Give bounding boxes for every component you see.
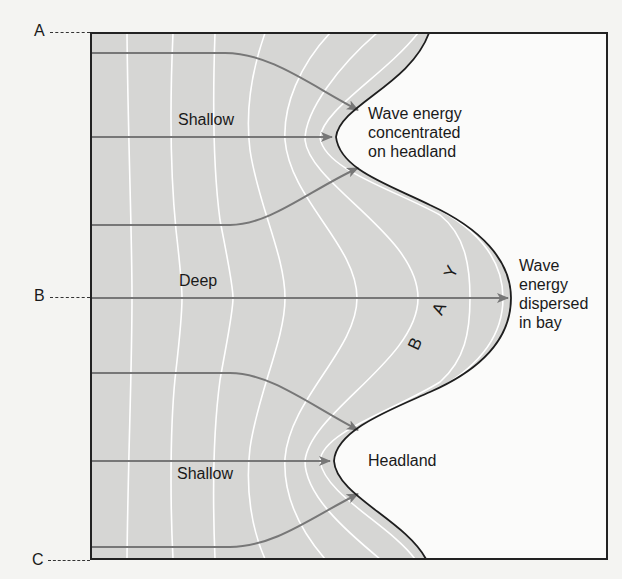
annotation-headland-energy: Wave energy concentrated on headland bbox=[368, 104, 462, 161]
annotation-headland: Headland bbox=[368, 451, 437, 470]
annotation-bay-energy: Wave energy dispersed in bay bbox=[519, 256, 588, 332]
zone-label-shallow-bottom: Shallow bbox=[177, 464, 233, 483]
marker-b-dash bbox=[50, 297, 90, 298]
marker-a-dash bbox=[50, 32, 90, 33]
marker-b-label: B bbox=[34, 288, 45, 304]
zone-label-deep: Deep bbox=[179, 271, 217, 290]
marker-c-label: C bbox=[32, 552, 44, 568]
marker-a-label: A bbox=[34, 23, 45, 39]
zone-label-shallow-top: Shallow bbox=[178, 110, 234, 129]
marker-c-dash bbox=[48, 560, 90, 561]
